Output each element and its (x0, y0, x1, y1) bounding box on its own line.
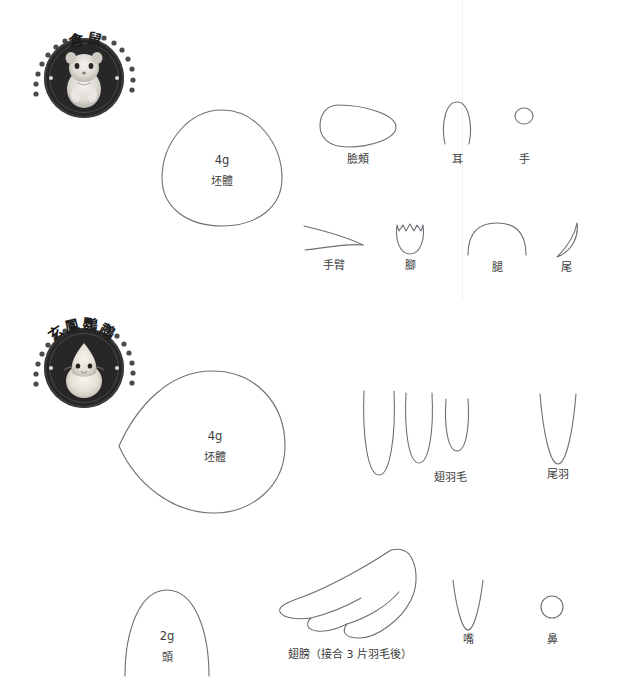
piece-hamster-leg: 腿 (466, 221, 528, 257)
piece-cockatiel-tail-feather: 尾羽 (537, 392, 579, 470)
badge-disc (44, 38, 124, 118)
piece-hamster-ear: 耳 (441, 100, 473, 148)
badge-rivet-left (49, 76, 53, 80)
piece-cockatiel-wing: 翅膀（接合 3 片羽毛後） (275, 548, 425, 646)
label-cockatiel-tail-feather: 尾羽 (537, 468, 579, 481)
piece-hamster-arm: 手臂 (303, 223, 365, 253)
cockatiel-body-weight: 4g (142, 426, 288, 448)
piece-cockatiel-nose: 鼻 (539, 594, 565, 620)
label-hamster-foot: 腳 (390, 259, 430, 272)
piece-hamster-body: 4g 坯體 (160, 108, 284, 228)
label-hamster-cheek: 臉頰 (318, 153, 398, 166)
badge-disc (44, 328, 124, 408)
badge-hamster: 倉鼠 (28, 22, 140, 134)
piece-cockatiel-beak: 嘴 (451, 578, 485, 636)
label-hamster-ear: 耳 (437, 153, 477, 166)
label-hamster-arm: 手臂 (303, 259, 365, 272)
label-cockatiel-wing: 翅膀（接合 3 片羽毛後） (267, 648, 433, 661)
cockatiel-body-name: 坯體 (142, 448, 288, 469)
hamster-photo (60, 51, 108, 109)
label-cockatiel-nose: 鼻 (532, 633, 572, 646)
label-hamster-hand: 手 (504, 153, 544, 166)
cockatiel-head-name: 頭 (123, 648, 211, 669)
badge-rivet-left (49, 366, 53, 370)
page-fold-line (462, 0, 463, 300)
pattern-template-page: 倉鼠 4g 坯體 臉頰 耳 手 (0, 0, 634, 700)
label-cockatiel-wing-feather: 翅羽毛 (410, 471, 490, 484)
label-cockatiel-beak: 嘴 (448, 633, 488, 646)
piece-hamster-cheek: 臉頰 (318, 103, 398, 149)
hamster-body-name: 坯體 (160, 172, 284, 193)
piece-cockatiel-wing-feathers: 翅羽毛 (362, 389, 474, 479)
piece-hamster-hand: 手 (513, 106, 535, 126)
hamster-body-inner-label: 4g 坯體 (160, 150, 284, 193)
piece-cockatiel-body: 4g 坯體 (116, 368, 288, 516)
cockatiel-photo (60, 341, 108, 399)
label-hamster-tail: 尾 (547, 261, 585, 274)
cockatiel-head-weight: 2g (123, 626, 211, 648)
badge-rivet-right (115, 76, 119, 80)
hamster-body-weight: 4g (160, 150, 284, 172)
cockatiel-head-inner-label: 2g 頭 (123, 626, 211, 669)
piece-hamster-foot: 腳 (394, 222, 426, 256)
label-hamster-leg: 腿 (476, 261, 518, 274)
piece-hamster-tail: 尾 (551, 221, 581, 259)
cockatiel-body-inner-label: 4g 坯體 (142, 426, 288, 469)
piece-cockatiel-head: 2g 頭 (123, 588, 211, 678)
